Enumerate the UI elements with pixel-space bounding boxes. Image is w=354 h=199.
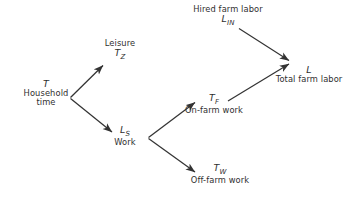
node-hired-caption: Hired farm labor: [184, 5, 272, 14]
node-work-caption: Work: [100, 138, 150, 147]
node-off-farm-work: TW Off-farm work: [180, 163, 260, 185]
node-total-caption: Total farm labor: [266, 75, 352, 84]
node-leisure: Leisure TZ: [94, 39, 146, 61]
node-hired-farm-labor: Hired farm labor LIN: [184, 5, 272, 27]
node-hired-symbol: LIN: [184, 14, 272, 27]
node-on-farm-symbol: TF: [176, 93, 252, 106]
node-household-time: T Household time: [8, 79, 84, 107]
node-on-farm-work: TF On-farm work: [176, 93, 252, 115]
arrow-hired-to-total: [239, 29, 289, 61]
node-household-caption-line2: time: [8, 98, 84, 107]
node-on-farm-caption: On-farm work: [176, 106, 252, 115]
node-leisure-symbol-subscript: Z: [121, 53, 126, 61]
diagram-canvas: T Household time Leisure TZ LS Work TF O…: [0, 0, 354, 199]
node-hired-symbol-subscript: IN: [227, 19, 235, 27]
node-work: LS Work: [100, 125, 150, 147]
node-work-symbol: LS: [100, 125, 150, 138]
node-total-farm-labor: L Total farm labor: [266, 65, 352, 84]
node-leisure-symbol: TZ: [94, 48, 146, 61]
node-off-farm-caption: Off-farm work: [180, 176, 260, 185]
node-off-farm-symbol: TW: [180, 163, 260, 176]
